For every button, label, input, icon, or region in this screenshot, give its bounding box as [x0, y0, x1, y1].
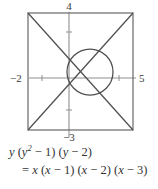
- equation-open-paren-1: (: [15, 145, 22, 159]
- y-axis-label-top: 4: [66, 0, 72, 12]
- x-axis-label-left: −2: [10, 72, 22, 84]
- equation-x-minus-one-group: − 1) (: [51, 163, 82, 177]
- equation-caption: y (y2 − 1) (y − 2) = x (x − 1) (x − 2) (…: [0, 142, 158, 179]
- equation-minus-two-group: − 2): [68, 145, 92, 159]
- equation-x-minus-two-group: − 2) (: [87, 163, 118, 177]
- implicit-curve-plot: −2 5 4 −3: [0, 0, 158, 144]
- equation-equals-sign: =: [22, 163, 32, 177]
- equation-line-left-side: y (y2 − 1) (y − 2): [0, 142, 158, 161]
- equation-line-right-side: = x (x − 1) (x − 2) (x − 3): [0, 161, 158, 179]
- equation-minus-one-group: − 1) (: [32, 145, 63, 159]
- equation-x-minus-three-group: − 3): [124, 163, 148, 177]
- x-axis-label-right: 5: [139, 72, 145, 84]
- curve-circle: [67, 49, 113, 95]
- plot-figure: −2 5 4 −3: [0, 0, 158, 144]
- equation-open-paren-2: (: [38, 163, 45, 177]
